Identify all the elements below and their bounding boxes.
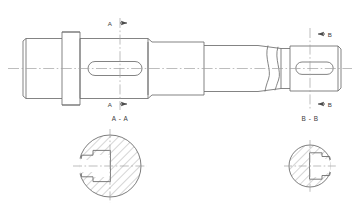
section-line-a: [120, 18, 127, 110]
section-mark-b-bottom-label: B: [328, 101, 332, 108]
section-line-b: [310, 28, 325, 110]
section-b-b-title: B - B: [301, 115, 318, 122]
shaft-drawing-canvas: A A B B A - A: [0, 0, 358, 210]
section-a-a-title: A - A: [112, 115, 129, 122]
section-view-b-b: [284, 140, 336, 192]
section-mark-a-top-label: A: [108, 20, 113, 27]
section-view-a-a: [73, 129, 147, 203]
section-mark-b-top-label: B: [328, 31, 332, 38]
drawing-sheet: A A B B A - A: [0, 0, 358, 210]
section-mark-a-bottom-label: A: [108, 101, 113, 108]
